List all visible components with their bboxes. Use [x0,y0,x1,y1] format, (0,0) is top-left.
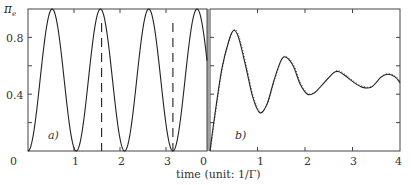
y-tick-label-0.4: 0.4 [6,89,24,102]
panel-b-label: b) [235,129,246,142]
y-tick-label-0.8: 0.8 [6,32,24,45]
x-axis-title: time (unit: 1/Γ) [176,168,261,181]
b-x-tick-4: 4 [395,155,402,168]
a-x-tick-1: 1 [72,155,79,168]
y-axis-symbol: π [4,2,12,16]
y-axis-subscript: e [12,10,16,18]
a-x-tick-2: 2 [118,155,125,168]
a-x-tick-3: 3 [164,155,171,168]
b-x-tick-1: 1 [257,155,264,168]
b-x-tick-3: 3 [350,155,357,168]
b-x-tick-2: 2 [304,155,311,168]
y-tick-label-0: 0 [10,155,17,168]
panel-a-label: a) [48,129,59,142]
y-axis-label: πe [4,2,16,18]
b-x-tick-0: 0 [200,155,207,168]
